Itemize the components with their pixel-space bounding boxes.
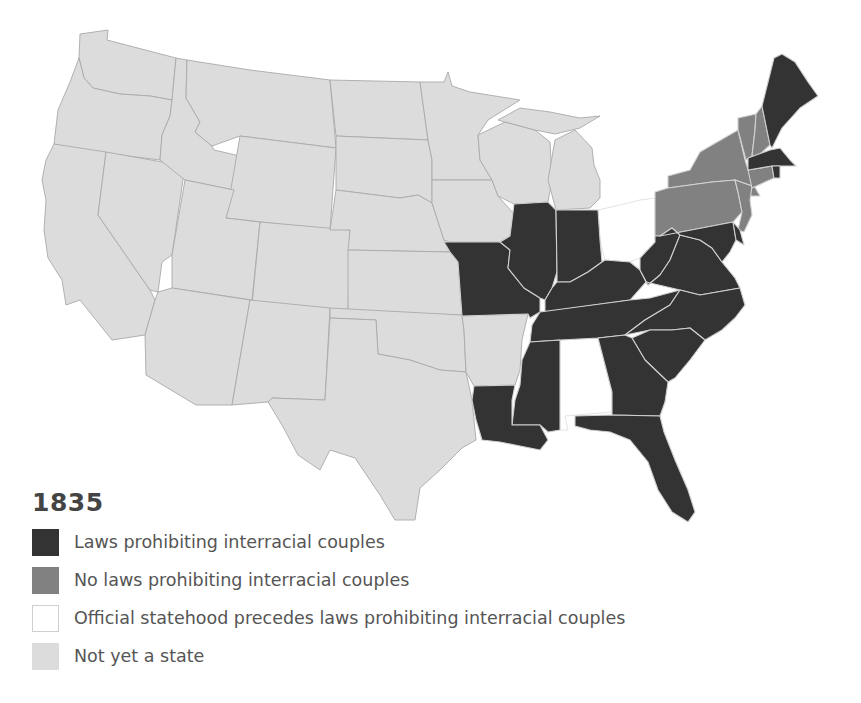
state-rhode-island [772,166,780,178]
legend-label: Official statehood precedes laws prohibi… [74,608,625,628]
legend-item-no-laws: No laws prohibiting interracial couples [32,561,625,599]
legend-year: 1835 [32,488,625,518]
state-arizona [145,288,250,405]
state-michigan [548,130,600,210]
state-colorado [252,222,350,315]
state-wyoming [226,136,336,230]
state-north-dakota [330,80,428,140]
legend-item-statehood-precedes: Official statehood precedes laws prohibi… [32,599,625,637]
legend: 1835 Laws prohibiting interracial couple… [32,488,625,675]
region-no-laws [655,106,774,236]
state-montana [186,60,336,148]
state-maine [762,54,818,148]
swatch-not-state [32,643,59,670]
swatch-no-laws [32,567,59,594]
legend-label: No laws prohibiting interracial couples [74,570,409,590]
legend-label: Laws prohibiting interracial couples [74,532,385,552]
legend-item-not-state: Not yet a state [32,637,625,675]
swatch-laws [32,529,59,556]
state-kansas [348,250,462,315]
swatch-statehood-precedes [32,605,59,632]
legend-item-laws: Laws prohibiting interracial couples [32,523,625,561]
state-arkansas [462,314,528,386]
legend-label: Not yet a state [74,646,204,666]
